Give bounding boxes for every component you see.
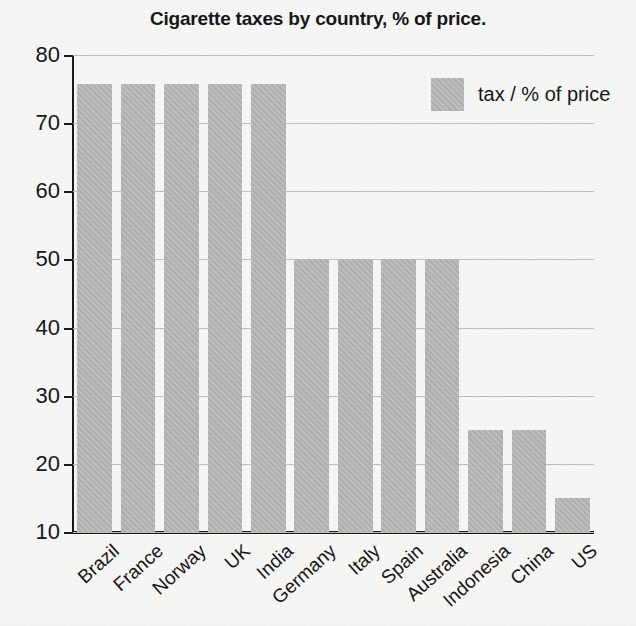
x-tick-label: UK bbox=[220, 540, 254, 574]
chart-title: Cigarette taxes by country, % of price. bbox=[0, 8, 636, 30]
bar bbox=[208, 84, 243, 532]
gridline bbox=[73, 532, 594, 533]
bar bbox=[425, 259, 460, 532]
y-tick-label: 30 bbox=[14, 385, 60, 407]
bar bbox=[294, 259, 329, 532]
bar bbox=[251, 84, 286, 532]
y-tick-label: 60 bbox=[14, 180, 60, 202]
bar bbox=[468, 430, 503, 532]
bar bbox=[338, 259, 373, 532]
y-tick-label: 70 bbox=[14, 112, 60, 134]
y-tick-label: 50 bbox=[14, 248, 60, 270]
x-tick-label: China bbox=[507, 540, 559, 590]
y-tick-label: 40 bbox=[14, 317, 60, 339]
bar-chart: Cigarette taxes by country, % of price. … bbox=[0, 0, 636, 626]
legend: tax / % of price bbox=[431, 78, 610, 111]
bar bbox=[555, 498, 590, 532]
y-tick-label: 20 bbox=[14, 453, 60, 475]
gridline bbox=[73, 55, 594, 56]
x-tick-label: US bbox=[567, 540, 601, 574]
legend-label-tax: tax / % of price bbox=[478, 83, 610, 106]
bar bbox=[121, 84, 156, 532]
bar bbox=[512, 430, 547, 532]
bar bbox=[381, 259, 416, 532]
plot-area bbox=[73, 55, 594, 532]
y-tick-label: 80 bbox=[14, 44, 60, 66]
bar bbox=[164, 84, 199, 532]
legend-swatch-tax bbox=[431, 78, 464, 111]
bar bbox=[77, 84, 112, 532]
y-tick-label: 10 bbox=[14, 521, 60, 543]
